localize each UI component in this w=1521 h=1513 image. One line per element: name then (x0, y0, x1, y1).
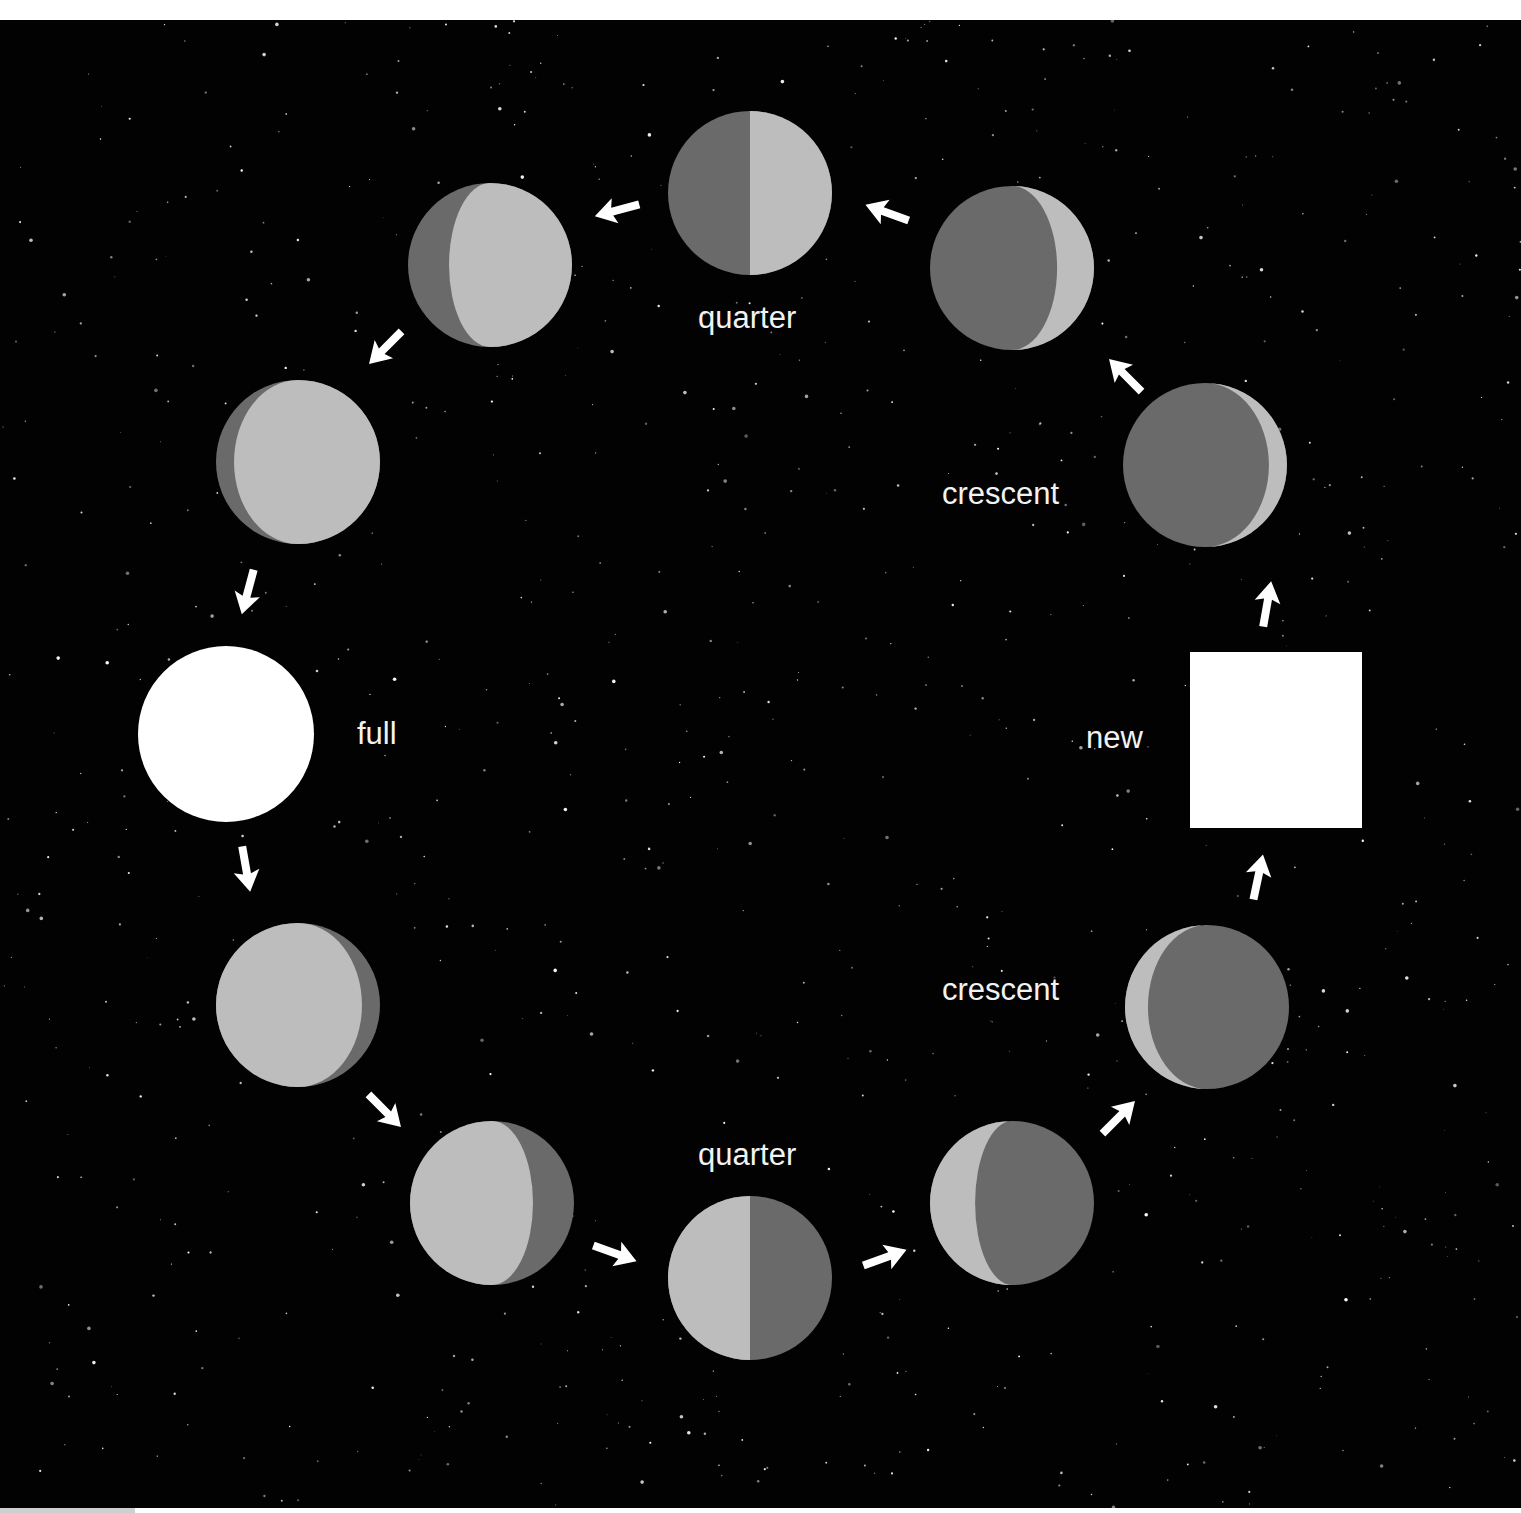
moon-lit-region (750, 111, 832, 275)
moon-lit-region (668, 1196, 750, 1360)
moon-lit-region (234, 380, 380, 544)
arrow-icon (229, 844, 263, 894)
label-quarter-top: quarter (698, 302, 796, 333)
moon-phase-crescent-lower-2 (930, 1121, 1094, 1285)
label-crescent-lower: crescent (942, 974, 1059, 1005)
arrow-icon (859, 1238, 911, 1278)
moon-lit-region (449, 183, 572, 347)
moon-phase-quarter-top (668, 111, 832, 275)
arrow-icon (589, 1233, 641, 1273)
moon-phase-new (1190, 652, 1362, 828)
moon-phase-crescent-upper-2 (1123, 383, 1287, 547)
arrow-icon (229, 566, 266, 617)
moon-phase-gibbous-upper-2 (408, 183, 572, 347)
moon-lit-region (216, 923, 362, 1087)
moon-phase-gibbous-lower-2 (216, 923, 380, 1087)
moon-phase-quarter-bottom (668, 1196, 832, 1360)
label-new: new (1086, 722, 1143, 753)
bottom-border (0, 1508, 1521, 1513)
new-moon-square (1190, 652, 1362, 828)
starfield-background (0, 20, 1521, 1508)
arrow-icon (861, 193, 913, 233)
moon-lit-region (410, 1121, 533, 1285)
arrow-icon (360, 322, 411, 373)
arrow-icon (1241, 852, 1276, 902)
bottom-border-segment (0, 1508, 135, 1513)
arrow-icon (1093, 1092, 1144, 1143)
moon-phase-crescent-upper-1 (930, 186, 1094, 350)
moon-phase-full (138, 646, 314, 822)
label-crescent-upper: crescent (942, 478, 1059, 509)
arrow-icon (359, 1085, 410, 1136)
moon-phase-gibbous-upper-1 (216, 380, 380, 544)
label-quarter-bottom: quarter (698, 1139, 796, 1170)
moon-phases-diagram: quarter crescent full new crescent quart… (0, 20, 1521, 1508)
arrow-icon (1250, 579, 1284, 629)
moon-phase-crescent-lower-1 (1125, 925, 1289, 1089)
full-moon-disc (138, 646, 314, 822)
label-full: full (357, 718, 397, 749)
arrow-icon (1100, 350, 1151, 401)
moon-phase-gibbous-lower-1 (410, 1121, 574, 1285)
arrow-icon (591, 192, 642, 229)
